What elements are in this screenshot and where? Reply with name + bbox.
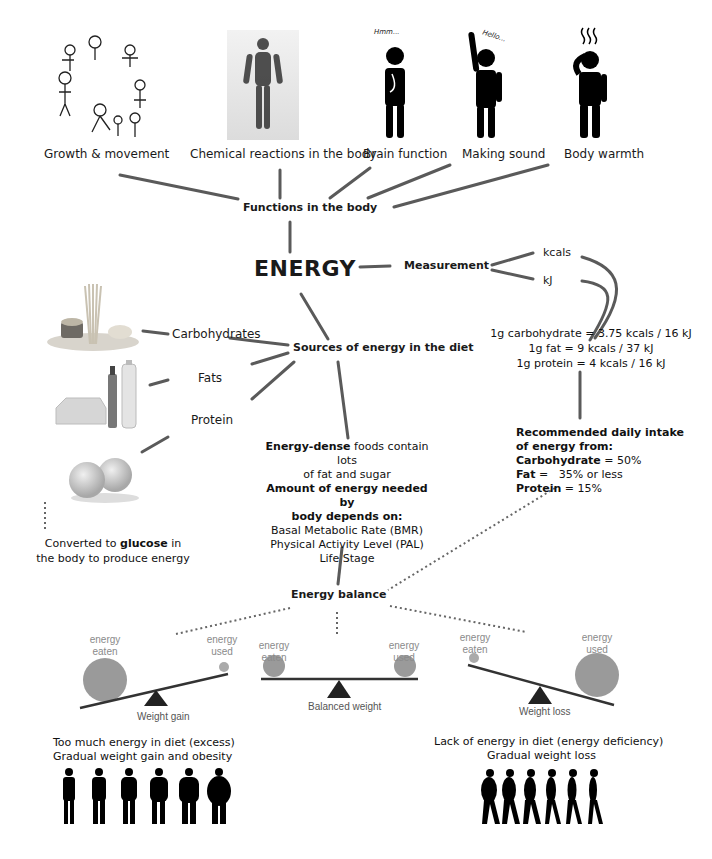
function-label-chemical: Chemical reactions in the body [190,147,377,161]
scale3-left-label: energy eaten [458,632,492,656]
oil-butter-icon [52,360,142,435]
energy-title: ENERGY [254,256,356,281]
energy-balance-heading: Energy balance [291,588,386,601]
function-label-growth: Growth & movement [44,147,169,161]
conversion-carbohydrate: 1g carbohydrate = 3.75 kcals / 16 kJ [486,326,696,341]
function-label-brain: Brain function [363,147,447,161]
weight-loss-figures [480,768,620,828]
pasta-icon [45,282,140,352]
eggs-image [65,450,145,505]
growth-cycle-icon [40,30,160,140]
function-label-warmth: Body warmth [564,147,644,161]
unit-kj: kJ [543,274,553,287]
recommended-row-protein: Protein = 15% [516,482,684,496]
scale2-left-label: energy eaten [257,640,291,664]
recommended-row-carbohydrate: Carbohydrate = 50% [516,454,684,468]
waving-person-icon [458,28,518,140]
functions-heading: Functions in the body [243,201,377,214]
function-label-sound: Making sound [462,147,545,161]
deficit-text: Lack of energy in diet (energy deficienc… [434,735,663,763]
scale3-caption: Weight loss [519,706,571,717]
glucose-keyword: glucose [120,537,168,550]
function-growth [40,30,160,140]
scale1-right-label: energy used [205,634,239,658]
hot-person-icon [565,26,615,140]
factor-life-stage: Life Stage [262,552,432,566]
measurement-heading: Measurement [404,259,489,272]
scale1-left-label: energy eaten [88,634,122,658]
energy-needs-block: Energy-dense foods contain lots of fat a… [262,440,432,566]
scale2-right-label: energy used [387,640,421,664]
function-sound: Hello... [458,28,518,140]
fats-image [52,360,142,435]
recommended-heading-1: Recommended daily intake [516,426,684,440]
scale2-caption: Balanced weight [308,701,381,712]
weight-loss-figures-icon [480,768,620,828]
conversion-list: 1g carbohydrate = 3.75 kcals / 16 kJ 1g … [486,326,696,371]
recommended-heading-2: of energy from: [516,440,684,454]
scale3-right-label: energy used [580,632,614,656]
glucose-note: Converted to glucose in the body to prod… [28,536,198,566]
recommended-intake: Recommended daily intake of energy from:… [516,426,684,496]
weight-gain-figures [55,767,235,827]
source-label-carbohydrates: Carbohydrates [172,327,261,341]
sources-heading: Sources of energy in the diet [293,341,474,354]
recommended-row-fat: Fat = 35% or less [516,468,684,482]
excess-text: Too much energy in diet (excess) Gradual… [53,736,235,764]
conversion-protein: 1g protein = 4 kcals / 16 kJ [486,356,696,371]
function-brain: Hmm... [370,28,420,140]
conversion-fat: 1g fat = 9 kcals / 37 kJ [486,341,696,356]
scale1-caption: Weight gain [137,711,190,722]
particle-body-icon [227,30,299,140]
energy-dense-keyword: Energy-dense [266,440,351,453]
function-warmth [565,26,615,140]
factor-bmr: Basal Metabolic Rate (BMR) [262,524,432,538]
speech-bubble-hmm: Hmm... [374,28,400,36]
pasta-image [45,282,140,352]
eggs-icon [65,450,145,505]
source-label-fats: Fats [198,371,222,385]
weight-gain-figures-icon [55,767,235,827]
factor-pal: Physical Activity Level (PAL) [262,538,432,552]
unit-kcals: kcals [543,246,571,259]
source-label-protein: Protein [191,413,233,427]
thinking-person-icon [370,28,420,140]
function-chemical [227,30,299,140]
